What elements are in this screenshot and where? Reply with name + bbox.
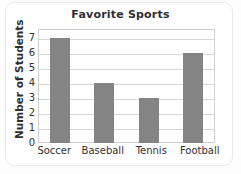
y-tick-label: 7 [5,33,35,43]
bar [183,53,203,143]
bar [94,83,114,143]
y-axis-tick-labels: 01234567 [0,29,35,143]
y-tick-label: 4 [5,78,35,88]
y-tick-label: 6 [5,48,35,58]
y-tick-label: 5 [5,63,35,73]
x-tick-label: Soccer [30,145,79,161]
chart-title: Favorite Sports [0,8,241,21]
bars-layer [38,29,215,143]
x-tick-label: Baseball [79,145,128,161]
x-tick-label: Tennis [127,145,176,161]
y-tick-label: 2 [5,108,35,118]
bar [139,98,159,143]
y-tick-label: 1 [5,123,35,133]
x-tick-label: Football [176,145,225,161]
bar-chart-screenshot: Favorite Sports Number of Students 01234… [0,0,241,174]
bar [50,38,70,143]
x-axis-tick-labels: SoccerBaseballTennisFootball [30,145,224,161]
y-tick-label: 3 [5,93,35,103]
